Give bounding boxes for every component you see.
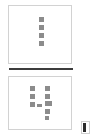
clipped-preview-fragment[interactable]: [81, 121, 90, 134]
glyph-preview-tile-top[interactable]: vertical column of four square dots: [8, 5, 72, 64]
glyph-dot: [30, 94, 35, 99]
glyph-dot: [39, 25, 44, 30]
glyph-dot: [39, 41, 44, 46]
glyph-canvas-top: [9, 6, 71, 63]
glyph-dot: [39, 33, 44, 38]
glyph-dot: [37, 104, 42, 107]
glyph-dot: [45, 86, 50, 91]
panel-divider: [9, 68, 73, 70]
glyph-dot: [30, 86, 35, 91]
glyph-canvas-bottom: [9, 77, 71, 129]
fragment-bar: [83, 123, 86, 132]
glyph-dot: [30, 102, 35, 107]
glyph-dot: [45, 101, 52, 106]
glyph-preview-tile-bottom[interactable]: two dotted vertical strokes forming a pi…: [8, 76, 72, 130]
glyph-dot: [45, 109, 50, 114]
glyph-dot: [45, 116, 49, 120]
glyph-dot: [39, 17, 44, 22]
app-root: vertical column of four square dots two …: [0, 0, 90, 137]
glyph-dot: [45, 94, 50, 99]
